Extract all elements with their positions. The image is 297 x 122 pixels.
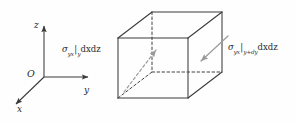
stress-symbol-right: σ bbox=[228, 42, 234, 52]
cube-front-face bbox=[118, 38, 188, 98]
area-element-right: dxdz bbox=[258, 42, 278, 52]
stress-label-right: σyx|y+dydxdz bbox=[228, 43, 278, 54]
cube-back-face bbox=[152, 12, 222, 72]
stress-subscript-left: yx bbox=[68, 51, 74, 57]
y-axis-label: y bbox=[84, 86, 89, 95]
x-axis bbox=[16, 77, 44, 104]
cube bbox=[118, 12, 222, 98]
origin-label: O bbox=[27, 69, 35, 79]
figure-canvas bbox=[0, 0, 297, 122]
stress-subscript-right: yx bbox=[234, 49, 240, 55]
stress-element-figure: z y x O σyx|ydxdz σyx|y+dydxdz bbox=[0, 0, 297, 122]
x-axis-label: x bbox=[17, 105, 22, 114]
evaluation-point-right-var: y bbox=[255, 49, 258, 55]
area-element-left: dxdz bbox=[80, 44, 100, 54]
stress-symbol-left: σ bbox=[62, 44, 68, 54]
cube-hidden-edges bbox=[118, 12, 222, 98]
stress-arrow-left bbox=[124, 50, 156, 92]
cube-connecting-edges bbox=[118, 12, 222, 98]
stress-arrow-right bbox=[201, 36, 228, 61]
z-axis-label: z bbox=[34, 21, 39, 30]
coordinate-axes bbox=[16, 26, 88, 104]
stress-arrows bbox=[124, 36, 228, 92]
evaluation-point-right-prefix: y+ bbox=[243, 49, 251, 55]
stress-label-left: σyx|ydxdz bbox=[62, 45, 101, 56]
